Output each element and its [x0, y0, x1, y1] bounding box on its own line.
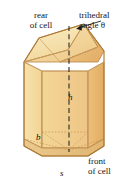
honeybee-cell-figure: rear of cell trihedral angle θ front of …	[0, 0, 138, 183]
face-prism-front	[42, 71, 88, 148]
annotation-trihedral-angle: trihedral angle θ	[79, 10, 137, 30]
annotation-front-of-cell: front of cell	[88, 156, 134, 176]
annotation-rear-of-cell: rear of cell	[20, 10, 62, 30]
face-prism-right	[88, 62, 104, 148]
dimension-label-b: b	[36, 132, 41, 142]
dimension-label-h: h	[68, 92, 73, 102]
dimension-label-s: s	[60, 168, 64, 178]
